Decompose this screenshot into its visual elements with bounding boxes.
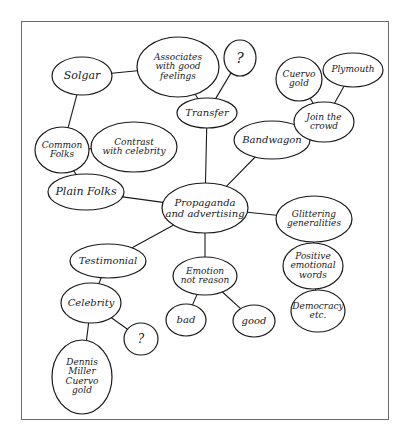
node-bad bbox=[166, 304, 206, 336]
node-shapes bbox=[0, 0, 413, 439]
node-contrast bbox=[91, 122, 177, 172]
node-democracy bbox=[291, 290, 345, 332]
node-question1 bbox=[224, 40, 256, 76]
node-plain-folks bbox=[48, 174, 124, 210]
node-good bbox=[233, 305, 275, 337]
node-transfer bbox=[177, 98, 237, 128]
node-emotion bbox=[173, 257, 237, 295]
node-celebrity bbox=[61, 283, 121, 323]
node-glittering bbox=[276, 196, 352, 242]
node-solgar bbox=[52, 57, 112, 95]
node-associates bbox=[137, 37, 219, 97]
node-testimonial bbox=[70, 244, 146, 278]
node-cuervo-gold-top bbox=[276, 57, 322, 101]
node-common-folks bbox=[35, 127, 89, 173]
node-join-crowd bbox=[294, 102, 354, 142]
node-dennis bbox=[52, 340, 112, 414]
node-plymouth bbox=[323, 53, 383, 87]
node-positive-words bbox=[283, 243, 343, 289]
node-question2 bbox=[124, 323, 158, 355]
node-propaganda bbox=[162, 183, 248, 233]
concept-map-canvas: Propaganda and advertisingTransfer?Assoc… bbox=[0, 0, 413, 439]
